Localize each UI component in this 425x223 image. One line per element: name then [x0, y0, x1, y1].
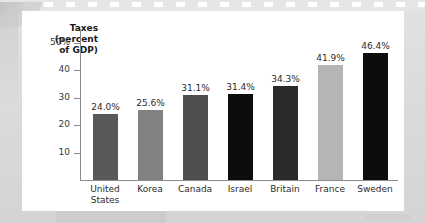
bar-group: 25.6% [128, 29, 173, 180]
x-axis-line [80, 180, 398, 181]
bar-group: 46.4% [353, 29, 398, 180]
y-axis-tick-40: 40 [74, 70, 81, 71]
y-axis-tick-50: 50% [74, 43, 81, 44]
x-axis-category-label-line: States [76, 195, 134, 206]
bar[interactable]: 41.9% [318, 65, 343, 180]
decorative-left-band [0, 11, 18, 109]
y-axis-tick-label-20: 20 [59, 119, 70, 129]
x-axis-category-label: Sweden [346, 184, 404, 195]
y-axis-tick-10: 10 [74, 153, 81, 154]
bar-chart: Taxes (percent of GDP) 1020304050% 24.0%… [22, 11, 404, 211]
decorative-shadow-bottom-right [365, 214, 411, 221]
screenshot-root: Taxes (percent of GDP) 1020304050% 24.0%… [0, 0, 425, 223]
bar-value-label: 31.4% [226, 82, 255, 92]
bar[interactable]: 46.4% [363, 53, 388, 180]
filmstrip-perforations [0, 2, 425, 7]
y-axis-tick-label-50: 50% [50, 37, 70, 47]
bar-value-label: 25.6% [136, 98, 165, 108]
y-axis-tick-label-30: 30 [59, 92, 70, 102]
bar[interactable]: 25.6% [138, 110, 163, 180]
filmstrip-header [0, 0, 425, 11]
bar-value-label: 41.9% [316, 53, 345, 63]
y-axis-tick-label-10: 10 [59, 147, 70, 157]
bar-group: 31.4% [218, 29, 263, 180]
bar-value-label: 24.0% [91, 102, 120, 112]
y-axis-tick-label-40: 40 [59, 64, 70, 74]
y-axis-tick-30: 30 [74, 98, 81, 99]
bar-value-label: 34.3% [271, 74, 300, 84]
bar[interactable]: 31.4% [228, 94, 253, 180]
bar-value-label: 31.1% [181, 83, 210, 93]
bar-group: 41.9% [308, 29, 353, 180]
bar-group: 24.0% [83, 29, 128, 180]
bar[interactable]: 24.0% [93, 114, 118, 180]
bar-group: 34.3% [263, 29, 308, 180]
bar-value-label: 46.4% [361, 41, 390, 51]
bar-group: 31.1% [173, 29, 218, 180]
chart-card: Taxes (percent of GDP) 1020304050% 24.0%… [22, 11, 404, 211]
bar[interactable]: 31.1% [183, 95, 208, 180]
decorative-shadow-bottom-left [56, 211, 166, 223]
x-axis-category-label-line: Sweden [346, 184, 404, 195]
plot-area: 24.0%25.6%31.1%31.4%34.3%41.9%46.4% [81, 29, 398, 180]
y-axis-tick-20: 20 [74, 125, 81, 126]
bar[interactable]: 34.3% [273, 86, 298, 180]
